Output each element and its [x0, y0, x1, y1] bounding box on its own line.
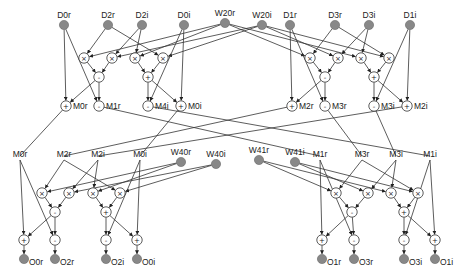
op-node-ba2: +: [399, 207, 409, 217]
op-node-bm5: ×: [331, 188, 341, 198]
wire-m7-a2: [364, 62, 371, 72]
node-label: D0i: [178, 10, 191, 20]
wire-D1i-M3i: [376, 29, 408, 101]
wire-bm1-bs1: [45, 197, 52, 207]
op-node-M0i: +: [176, 101, 186, 111]
op-symbol: +: [319, 237, 325, 245]
io-node-D2i: [137, 20, 146, 29]
wire-D0r-M1r: [66, 29, 97, 101]
node-label: W41i: [285, 147, 304, 157]
op-node-m8: ×: [384, 53, 394, 63]
op-node-M4i: -: [143, 101, 153, 111]
op-symbol: ×: [388, 190, 394, 198]
wire-s1-M0r: [70, 80, 95, 102]
wire-L_M1r-f5: [320, 160, 322, 234]
op-node-m3: ×: [130, 53, 140, 63]
io-node-W41r: [254, 155, 263, 164]
stage2-input-label: M2i: [91, 149, 105, 159]
wire-ba2-f8: [408, 215, 431, 236]
op-node-bm4: ×: [115, 188, 125, 198]
node-label: O1i: [440, 257, 453, 267]
op-symbol: +: [178, 103, 184, 111]
stage2-input-label: M0r: [13, 149, 28, 159]
stage2-input-label: M3i: [389, 149, 403, 159]
io-dot-icon: [59, 20, 68, 29]
op-node-a1: +: [143, 72, 153, 82]
io-node-D0i: [179, 20, 188, 29]
wire-a2-M2i: [378, 80, 403, 102]
op-node-bm6: ×: [363, 188, 373, 198]
io-node-D3i: [364, 20, 373, 29]
io-dot-icon: [399, 254, 408, 263]
op-symbol: ×: [132, 55, 138, 63]
op-node-bm7: ×: [386, 188, 396, 198]
io-node-O3i: [399, 254, 408, 263]
op-symbol: ×: [358, 55, 364, 63]
op-node-bm2: ×: [64, 188, 74, 198]
op-node-f3: -: [101, 235, 111, 245]
op-node-M0r: +: [61, 101, 71, 111]
wire-D1i-M2i: [407, 30, 410, 101]
io-node-W20i: [257, 20, 266, 29]
io-node-W20r: [220, 18, 229, 27]
op-symbol: ×: [90, 190, 96, 198]
wire-D2r-m1: [87, 29, 105, 54]
wire-L_M0r-f2: [20, 160, 53, 235]
wire-bm5-bs2: [339, 197, 348, 208]
op-node-m6: ×: [333, 53, 343, 63]
wire-bm7-ba2: [394, 197, 401, 207]
node-label: W20i: [252, 10, 271, 20]
op-symbol: +: [289, 103, 295, 111]
io-dot-icon: [132, 254, 141, 263]
io-node-D1i: [405, 20, 414, 29]
wire-W40i-bm4: [125, 165, 211, 191]
io-dot-icon: [330, 20, 339, 29]
node-label: O2i: [111, 257, 124, 267]
io-dot-icon: [103, 20, 112, 29]
op-node-f5: +: [317, 235, 327, 245]
node-label: W40i: [206, 149, 225, 159]
stage2-input-label: M1r: [313, 149, 328, 159]
wire-bm4-ba1: [109, 197, 117, 207]
op-symbol: +: [103, 209, 109, 217]
op-node-M2r: +: [287, 101, 297, 111]
op-node-f6: -: [349, 235, 359, 245]
stage2-input-label: M3r: [355, 149, 370, 159]
op-node-f7: -: [399, 235, 409, 245]
io-node-O2r: [50, 254, 59, 263]
wire-s2-M2r: [296, 80, 321, 102]
fft-dataflow-diagram: ××××××××-+-++--++--+××××××××-+-++--++--+…: [0, 0, 466, 280]
op-node-bm1: ×: [37, 188, 47, 198]
result-label: M0r: [73, 101, 88, 111]
io-node-W40i: [211, 159, 220, 168]
op-symbol: ×: [160, 55, 166, 63]
op-symbol: ×: [117, 190, 123, 198]
op-symbol: ×: [66, 190, 72, 198]
node-label: O0r: [29, 257, 43, 267]
result-label: M3i: [381, 101, 395, 111]
wire-bm3-ba1: [96, 197, 103, 207]
wire-m4-a1: [152, 62, 160, 72]
wire-bm2-bs1: [58, 197, 66, 207]
wire-m3-a1: [138, 62, 145, 72]
node-label: D1r: [283, 10, 297, 20]
io-dot-icon: [290, 157, 299, 166]
op-node-M2i: +: [402, 101, 412, 111]
io-node-D2r: [103, 20, 112, 29]
op-symbol: ×: [386, 55, 392, 63]
io-dot-icon: [176, 157, 185, 166]
op-symbol: +: [401, 209, 407, 217]
io-node-O2i: [101, 254, 110, 263]
wire-m6-s2: [328, 62, 335, 72]
io-dot-icon: [364, 20, 373, 29]
io-dot-icon: [430, 254, 439, 263]
io-node-D3r: [330, 20, 339, 29]
op-symbol: +: [21, 237, 27, 245]
io-dot-icon: [19, 254, 28, 263]
op-node-bm3: ×: [88, 188, 98, 198]
io-dot-icon: [257, 20, 266, 29]
wire-ba1-f4: [110, 215, 133, 236]
op-node-ba1: +: [101, 207, 111, 217]
io-dot-icon: [285, 20, 294, 29]
op-node-bm8: ×: [413, 188, 423, 198]
